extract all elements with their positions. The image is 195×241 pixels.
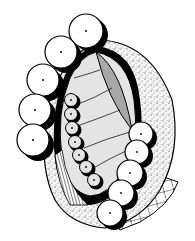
- cell-diagram: [0, 0, 195, 241]
